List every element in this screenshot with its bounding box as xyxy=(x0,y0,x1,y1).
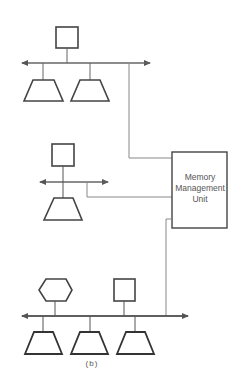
mmu-to-bottom-connector xyxy=(166,219,172,316)
middle-memory-trapezoid xyxy=(44,198,82,220)
middle-bus-group xyxy=(40,144,172,220)
mmu-label-line-2: Management xyxy=(172,183,228,194)
bottom-memory-trapezoid-1 xyxy=(25,332,62,354)
top-memory-trapezoid-2 xyxy=(71,80,109,101)
top-processor-square xyxy=(56,27,78,48)
figure-caption: (b) xyxy=(80,359,104,368)
bottom-hexagon-device xyxy=(39,279,72,301)
mmu-label-line-1: Memory xyxy=(172,172,228,183)
middle-to-mmu-connector xyxy=(87,182,172,197)
top-bus-group xyxy=(22,27,172,158)
bottom-memory-trapezoid-3 xyxy=(117,332,154,354)
middle-processor-square xyxy=(52,144,74,166)
top-memory-trapezoid-1 xyxy=(24,80,63,101)
bottom-bus-group xyxy=(22,279,188,354)
bottom-memory-trapezoid-2 xyxy=(71,332,108,354)
mmu-label-line-3: Unit xyxy=(172,194,228,205)
top-to-mmu-connector xyxy=(129,63,172,158)
mmu-label: Memory Management Unit xyxy=(172,172,228,205)
bottom-processor-square xyxy=(114,279,135,301)
